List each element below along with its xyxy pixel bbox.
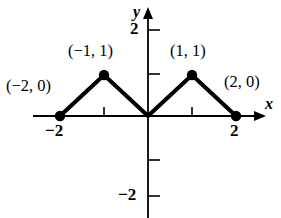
y-tick-label-pos2: 2 xyxy=(130,20,139,37)
point-label-left-endpoint: (−2, 0) xyxy=(6,78,51,95)
point-label-right-endpoint: (2, 0) xyxy=(224,74,260,91)
graph-figure: x y −2 2 2 −2 (−2, 0) (−1, 1) (1, 1) (2,… xyxy=(0,0,281,218)
y-axis-arrowhead xyxy=(143,7,153,19)
data-point-marker-right-endpoint xyxy=(231,111,241,121)
x-tick-label-neg2: −2 xyxy=(45,122,63,139)
y-tick-label-neg2: −2 xyxy=(118,186,136,203)
data-point-marker-left-endpoint xyxy=(55,111,65,121)
y-axis-label: y xyxy=(133,4,140,20)
x-axis-arrowhead xyxy=(254,111,266,121)
coordinate-plane xyxy=(0,0,281,218)
point-label-left-peak: (−1, 1) xyxy=(68,43,113,60)
x-tick-label-pos2: 2 xyxy=(230,122,239,139)
x-axis-label: x xyxy=(265,96,273,112)
data-point-marker-right-peak xyxy=(187,70,197,80)
data-point-marker-left-peak xyxy=(99,70,109,80)
point-label-right-peak: (1, 1) xyxy=(170,43,206,60)
